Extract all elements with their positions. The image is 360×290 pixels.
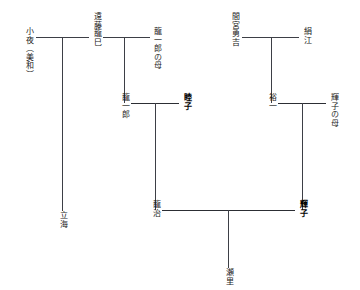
person-tatsumi-umi: 立海	[58, 211, 67, 228]
person-teruko-mother: 輝子の母	[329, 93, 338, 127]
union-line-tatsumi-ryuichirohaha	[103, 37, 150, 38]
person-ryuichiro: 龍一郎	[120, 93, 129, 119]
family-tree-diagram: 小夜（美和） 遠藤龍巳 龍一郎の母 間宮勇吉 絹江 龍一郎 睦子 裕一 輝子の母…	[0, 0, 360, 290]
person-seri: 瀬里	[224, 268, 233, 285]
descent-line-to-seri	[228, 210, 229, 268]
person-teruko: 輝子	[298, 200, 307, 217]
descent-line-to-tatsumi-umi	[62, 37, 63, 211]
person-kinue: 絹江	[302, 27, 311, 44]
person-mutsuko: 睦子	[182, 93, 191, 110]
person-mamiya-yukichi: 間宮勇吉	[230, 12, 239, 46]
person-yuichi: 裕一	[267, 93, 276, 110]
person-ryuichiro-mother: 龍一郎の母	[152, 27, 161, 70]
person-endo-tatsumi: 遠藤龍巳	[92, 12, 101, 46]
person-sayo: 小夜（美和）	[24, 27, 33, 78]
descent-line-to-ryuji	[155, 103, 156, 210]
descent-line-to-teruko	[302, 103, 303, 210]
person-ryuji: 龍治	[151, 200, 160, 217]
